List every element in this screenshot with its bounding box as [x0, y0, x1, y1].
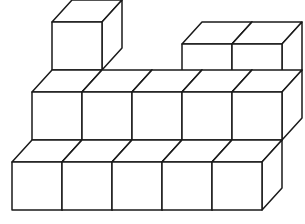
- cube-11: [52, 0, 122, 70]
- cube-front-face: [212, 162, 262, 210]
- cube-5: [212, 140, 282, 210]
- cube-front-face: [62, 162, 112, 210]
- cube-front-face: [82, 92, 132, 140]
- cube-front-face: [32, 92, 82, 140]
- cube-front-face: [162, 162, 212, 210]
- cube-front-face: [132, 92, 182, 140]
- isometric-cube-drawing: [0, 0, 305, 224]
- cube-front-face: [112, 162, 162, 210]
- cube-front-face: [182, 92, 232, 140]
- cube-front-face: [52, 22, 102, 70]
- cube-figure-container: [0, 0, 305, 224]
- cube-front-face: [12, 162, 62, 210]
- cube-front-face: [232, 92, 282, 140]
- cube-10: [232, 70, 302, 140]
